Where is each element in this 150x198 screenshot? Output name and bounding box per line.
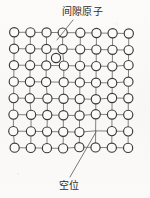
lattice-atom — [9, 94, 18, 103]
lattice-atom — [26, 61, 35, 70]
lattice-atom — [91, 143, 100, 152]
lattice-atom — [124, 110, 133, 119]
lattice-atom — [26, 44, 35, 53]
lattice-atom — [9, 127, 18, 136]
lattice-atom — [10, 143, 19, 152]
lattice-atom — [124, 61, 133, 70]
lattice-atom — [75, 143, 84, 152]
lattice-atom — [59, 78, 68, 87]
lattice-atom — [107, 143, 116, 152]
lattice-atom — [124, 127, 133, 136]
lattice-atom — [27, 110, 36, 119]
lattice-atom — [76, 28, 85, 37]
vacancy-label: 空位 — [59, 180, 79, 191]
lattice-atom — [108, 45, 117, 54]
atom-layer — [9, 28, 134, 153]
lattice-atom — [42, 44, 51, 53]
lattice-atom — [75, 78, 84, 87]
lattice-atom — [124, 29, 133, 38]
lattice-atom — [107, 110, 116, 119]
lattice-atom — [91, 110, 100, 119]
lattice-atom — [26, 28, 35, 37]
lattice-atom — [10, 28, 19, 37]
lattice-atom — [108, 29, 117, 38]
lattice-atom — [59, 111, 68, 120]
lattice-atom — [25, 77, 34, 86]
lattice-atom — [59, 127, 68, 136]
lattice-atom — [59, 94, 68, 103]
lattice-atom — [9, 110, 18, 119]
lattice-atom — [43, 110, 52, 119]
lattice-atom — [124, 77, 133, 86]
lattice-atom — [91, 95, 100, 104]
defect-layer — [51, 53, 60, 62]
lattice-atom — [75, 128, 84, 137]
lattice-atom — [9, 77, 18, 86]
lattice-atom — [9, 61, 18, 70]
lattice-atom — [42, 61, 51, 70]
lattice-atom — [59, 61, 68, 70]
lattice-atom — [108, 62, 117, 71]
interstitial-atom-label: 间隙原子 — [62, 6, 103, 17]
lattice-atom — [58, 45, 67, 54]
lattice-atom — [107, 93, 116, 102]
lattice-atom — [91, 78, 100, 87]
lattice-diagram — [0, 0, 150, 198]
lattice-atom — [75, 111, 84, 120]
lattice-atom — [75, 94, 84, 103]
lattice-atom — [92, 45, 101, 54]
lattice-atom — [41, 77, 50, 86]
lattice-atom — [76, 45, 85, 54]
lattice-atom — [42, 127, 51, 136]
lattice-atom — [108, 78, 117, 87]
lattice-atom — [43, 94, 52, 103]
lattice-atom — [124, 45, 133, 54]
vacancy-leader-line — [70, 132, 96, 177]
lattice-atom — [9, 44, 18, 53]
lattice-atom — [92, 62, 101, 71]
lattice-atom — [42, 28, 51, 37]
lattice-atom — [107, 127, 116, 136]
lattice-atom — [42, 144, 51, 153]
lattice-atom — [26, 127, 35, 136]
lattice-atom — [25, 94, 34, 103]
lattice-atom — [124, 143, 133, 152]
interstitial-atom — [51, 53, 60, 62]
lattice-atom — [124, 94, 133, 103]
figure-canvas: 间隙原子 空位 — [0, 0, 150, 198]
lattice-atom — [59, 144, 68, 153]
lattice-atom — [26, 143, 35, 152]
lattice-atom — [92, 28, 101, 37]
lattice-atom — [75, 61, 84, 70]
